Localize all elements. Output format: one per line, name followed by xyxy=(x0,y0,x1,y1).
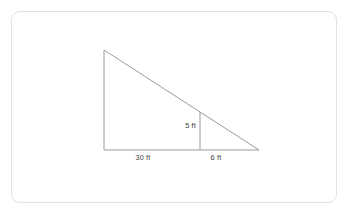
triangle-diagram: 5 ft 30 ft 6 ft xyxy=(0,0,349,214)
figure-container: 5 ft 30 ft 6 ft xyxy=(0,0,349,214)
triangle-hypotenuse xyxy=(104,50,259,150)
label-base-right: 6 ft xyxy=(211,153,222,162)
label-base-left: 30 ft xyxy=(136,153,151,162)
label-inner-height: 5 ft xyxy=(185,121,196,130)
